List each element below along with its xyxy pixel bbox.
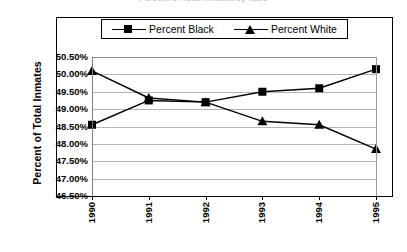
plot-area <box>92 57 376 196</box>
x-axis-tick-mark <box>149 196 150 200</box>
x-axis-tick-label: 1990 <box>85 202 99 242</box>
x-axis-tick-label-text: 1994 <box>314 202 324 223</box>
chart-title: Percent of Total Inmates by Race <box>0 0 407 3</box>
x-axis-tick-label: 1995 <box>369 202 383 242</box>
series-line-percent-black <box>92 69 376 125</box>
square-marker-icon <box>112 23 146 35</box>
x-axis-tick-mark <box>262 196 263 200</box>
plot-right-edge <box>376 57 377 197</box>
series-percent-black <box>88 65 380 129</box>
y-axis-tick-label: 47.50% <box>56 156 88 166</box>
x-axis-tick-label: 1992 <box>199 202 213 242</box>
legend-item-label: Percent Black <box>146 23 214 35</box>
x-axis-tick-label: 1994 <box>312 202 326 242</box>
series-percent-white <box>87 66 381 153</box>
chart-legend: Percent BlackPercent White <box>101 19 348 39</box>
x-axis-tick-mark <box>206 196 207 200</box>
x-axis-tick-labels: 199019911992199319941995 <box>92 202 377 246</box>
x-axis-tick-label-text: 1992 <box>201 202 211 223</box>
y-axis-line <box>92 57 93 197</box>
y-axis-tick-label: 50.50% <box>56 52 88 62</box>
x-axis-tick-label: 1993 <box>255 202 269 242</box>
y-axis-tick-label: 49.50% <box>56 87 88 97</box>
y-axis-title-label: Percent of Total Inmates <box>31 61 43 185</box>
data-point-square-marker-icon <box>258 88 266 96</box>
x-axis-tick-mark <box>376 196 377 200</box>
y-axis-tick-label: 47.00% <box>56 174 88 184</box>
x-axis-tick-label-text: 1993 <box>257 202 267 223</box>
y-axis-tick-label: 49.00% <box>56 104 88 114</box>
x-axis-tick-label-text: 1991 <box>144 202 154 223</box>
x-axis-line <box>92 196 377 197</box>
chart-figure: Percent of Total Inmates by Race Percent… <box>0 0 407 252</box>
x-axis-tick-label-text: 1995 <box>371 202 381 223</box>
y-axis-title: Percent of Total Inmates <box>30 48 44 198</box>
legend-item-label: Percent White <box>268 23 337 35</box>
legend-item-percent-white[interactable]: Percent White <box>234 23 337 35</box>
x-axis-tick-mark <box>92 196 93 200</box>
x-axis-tick-label-text: 1990 <box>87 202 97 223</box>
x-axis-tick-label: 1991 <box>142 202 156 242</box>
y-axis-tick-label: 46.50% <box>56 191 88 201</box>
legend-item-percent-black[interactable]: Percent Black <box>112 23 214 35</box>
series-layer <box>92 57 376 196</box>
series-line-percent-white <box>92 71 376 149</box>
data-point-square-marker-icon <box>315 84 323 92</box>
y-axis-tick-labels: 50.50%50.00%49.50%49.00%48.50%48.00%47.5… <box>44 51 90 197</box>
x-axis-tick-mark <box>319 196 320 200</box>
y-axis-tick-label: 48.50% <box>56 122 88 132</box>
triangle-marker-icon <box>234 23 268 35</box>
y-axis-tick-label: 48.00% <box>56 139 88 149</box>
y-axis-tick-label: 50.00% <box>56 69 88 79</box>
